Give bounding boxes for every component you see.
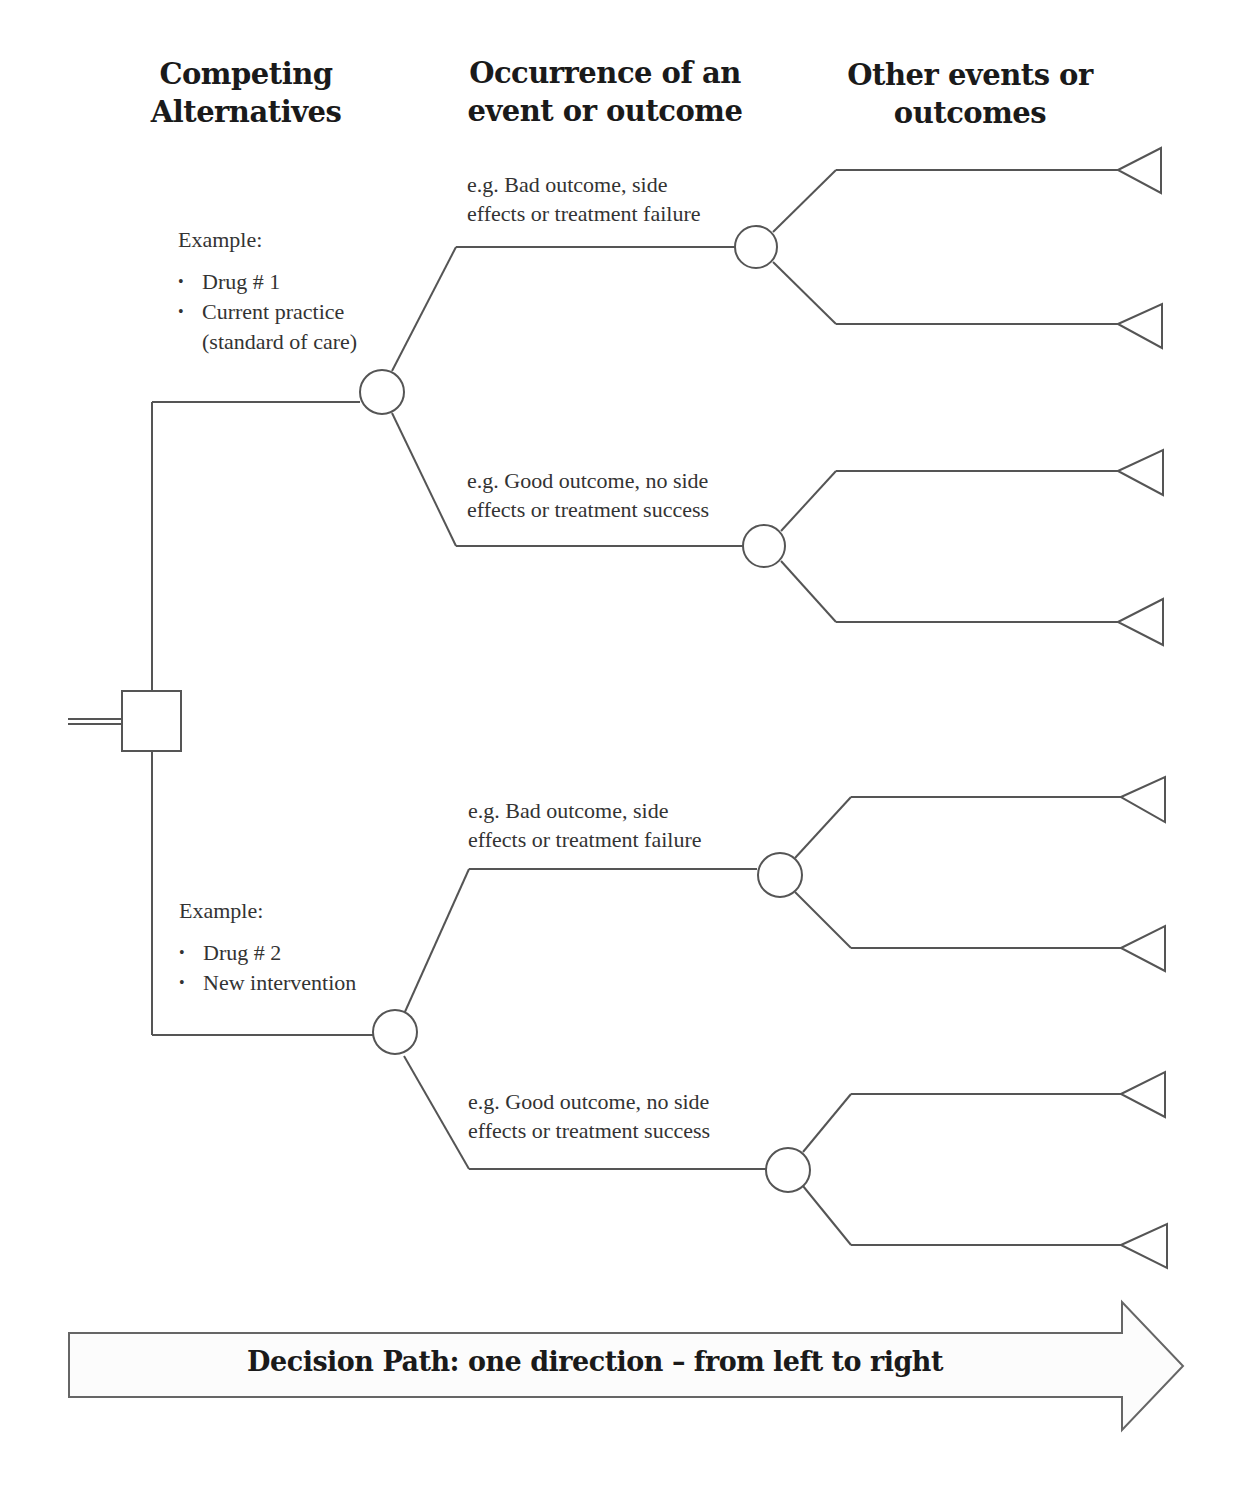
decision-node-square-icon bbox=[122, 691, 181, 751]
header-line: Alternatives bbox=[136, 93, 356, 131]
outcome-label-alt1-good: e.g. Good outcome, no side effects or tr… bbox=[467, 466, 709, 524]
outcome-label-line: e.g. Bad outcome, side bbox=[467, 170, 701, 199]
outcome-label-line: effects or treatment failure bbox=[467, 199, 701, 228]
chance-node-circle-icon bbox=[360, 370, 404, 414]
outcome-label-alt2-bad: e.g. Bad outcome, side effects or treatm… bbox=[468, 796, 702, 854]
alternative-2-example-label: Example: bbox=[179, 898, 263, 924]
chance-node-circle-icon bbox=[758, 853, 802, 897]
chance-node-circle-icon bbox=[735, 226, 777, 268]
header-competing-alternatives: Competing Alternatives bbox=[136, 55, 356, 131]
outcome-label-line: e.g. Good outcome, no side bbox=[468, 1087, 710, 1116]
outcome-label-line: e.g. Good outcome, no side bbox=[467, 466, 709, 495]
outcome-label-alt2-good: e.g. Good outcome, no side effects or tr… bbox=[468, 1087, 710, 1145]
entry-line bbox=[68, 719, 122, 724]
outcome-label-line: effects or treatment success bbox=[467, 495, 709, 524]
alternative-1-example-label: Example: bbox=[178, 227, 262, 253]
alternative-2-items: Drug # 2 New intervention bbox=[179, 938, 356, 998]
header-line: Occurrence of an bbox=[450, 54, 760, 92]
outcome-label-line: e.g. Bad outcome, side bbox=[468, 796, 702, 825]
header-line: Other events or bbox=[830, 56, 1110, 94]
header-line: Competing bbox=[136, 55, 356, 93]
outcome-label-line: effects or treatment failure bbox=[468, 825, 702, 854]
header-line: event or outcome bbox=[450, 92, 760, 130]
alternative-1-items: Drug # 1 Current practice bbox=[178, 267, 344, 327]
chance-node-circle-icon bbox=[373, 1010, 417, 1054]
alternative-1-item-continuation: (standard of care) bbox=[202, 327, 357, 356]
alternative-1-item: Drug # 1 bbox=[178, 267, 344, 297]
header-other-events: Other events or outcomes bbox=[830, 56, 1110, 132]
outcome-label-alt1-bad: e.g. Bad outcome, side effects or treatm… bbox=[467, 170, 701, 228]
chance-node-circle-icon bbox=[766, 1148, 810, 1192]
chance-node-circle-icon bbox=[743, 525, 785, 567]
alternative-2-item: Drug # 2 bbox=[179, 938, 356, 968]
alternative-2-item: New intervention bbox=[179, 968, 356, 998]
outcome-label-line: effects or treatment success bbox=[468, 1116, 710, 1145]
header-occurrence-of-event: Occurrence of an event or outcome bbox=[450, 54, 760, 130]
terminal-node-triangle-icons bbox=[1118, 148, 1167, 1268]
decision-path-label: Decision Path: one direction – from left… bbox=[70, 1346, 1120, 1377]
alternative-1-item: Current practice bbox=[178, 297, 344, 327]
decision-tree-diagram: Competing Alternatives Occurrence of an … bbox=[0, 0, 1236, 1506]
header-line: outcomes bbox=[830, 94, 1110, 132]
